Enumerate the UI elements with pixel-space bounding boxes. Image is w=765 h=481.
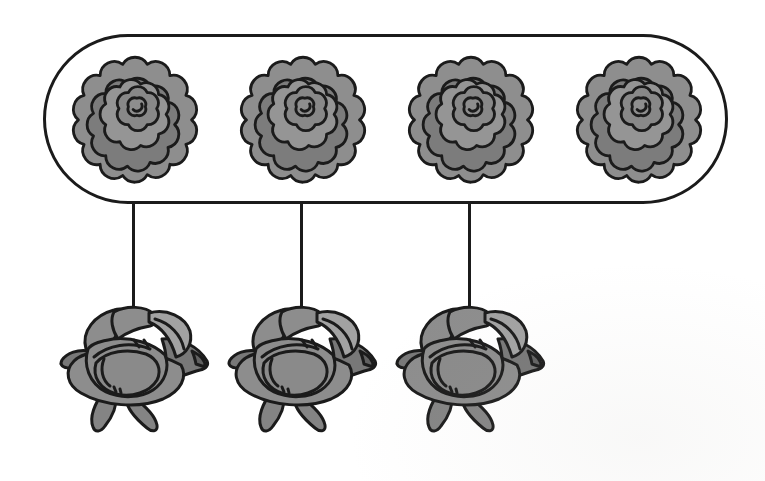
matching-line <box>132 202 135 310</box>
marigold-flower-icon <box>401 53 541 185</box>
worksheet-canvas <box>0 0 765 481</box>
matching-line <box>468 202 471 310</box>
marigold-flower-icon <box>65 53 205 185</box>
rose-flower-icon <box>227 307 377 442</box>
marigold-flower-icon <box>569 53 709 185</box>
rose-flower-icon <box>59 307 209 442</box>
rose-group <box>59 307 545 442</box>
marigold-group <box>46 37 725 201</box>
group-capsule <box>43 34 728 204</box>
matching-line <box>300 202 303 310</box>
matching-lines <box>132 202 471 310</box>
marigold-flower-icon <box>233 53 373 185</box>
rose-flower-icon <box>395 307 545 442</box>
